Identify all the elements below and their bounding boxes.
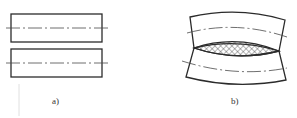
weld-distortion-diagram: a) b) [0,0,297,118]
panel-a: a) [6,14,108,116]
panel-b-label: b) [231,96,239,106]
panel-a-label: a) [52,96,59,106]
panel-b: b) [182,12,287,106]
centerline-bottom-curved [182,61,287,72]
centerline-top-curved [187,27,287,37]
